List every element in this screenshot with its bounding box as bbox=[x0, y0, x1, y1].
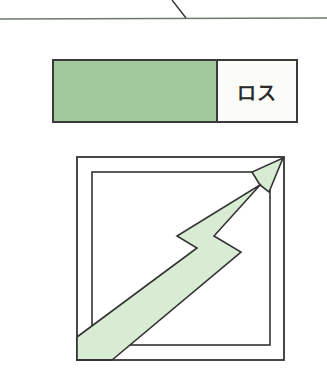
growth-chart bbox=[0, 0, 327, 374]
